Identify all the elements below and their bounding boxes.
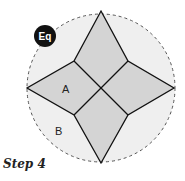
badge-label: Eq bbox=[39, 31, 52, 42]
eq-badge: Eq bbox=[34, 25, 56, 47]
star-diagram: A B Eq bbox=[0, 0, 185, 181]
step-caption: Step 4 bbox=[3, 157, 46, 171]
region-label-a: A bbox=[62, 83, 70, 95]
region-label-b: B bbox=[55, 125, 62, 137]
